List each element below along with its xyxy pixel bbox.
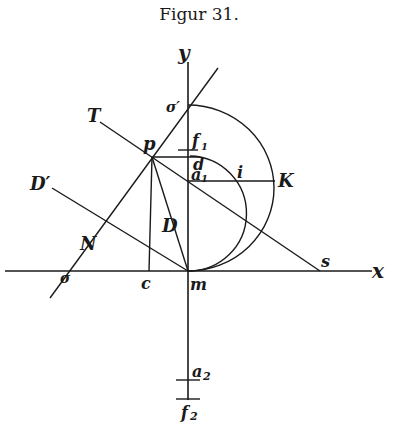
label-c: c (141, 274, 151, 293)
label-D: D (161, 215, 178, 236)
label-y: y (177, 41, 191, 65)
label-a1: a (191, 165, 201, 184)
label-f2-sub: 2 (189, 410, 198, 422)
label-N: N (79, 233, 98, 254)
label-x: x (371, 259, 385, 283)
line-p-m (152, 157, 188, 271)
label-a2: a (192, 362, 202, 381)
line-p-c (149, 157, 152, 271)
label-i: i (237, 163, 243, 182)
label-T: T (87, 105, 102, 126)
label-a2-sub: 2 (202, 370, 211, 383)
label-K: K (277, 170, 295, 191)
label-sigma-prime: σ′ (166, 99, 180, 115)
label-D-prime: D′ (29, 173, 51, 194)
label-s: s (320, 252, 330, 271)
tangent-line-T (100, 122, 320, 271)
geometric-construction: y x σ′ σ T p f 1 d a 1 i K D′ D N c m s … (0, 0, 398, 422)
label-m: m (190, 275, 207, 294)
label-sigma: σ (60, 270, 71, 286)
label-p: p (143, 133, 156, 154)
label-a1-sub: 1 (201, 173, 208, 184)
label-f1-sub: 1 (201, 141, 208, 152)
large-circle-arc (188, 105, 274, 271)
